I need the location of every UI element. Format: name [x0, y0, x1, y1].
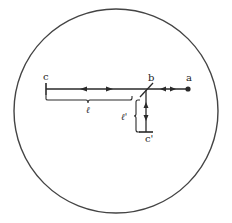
interferometer-diagram: c b a c' ℓ ℓ': [0, 0, 232, 223]
label-l-prime: ℓ': [121, 112, 127, 122]
arrow-up-icon: [144, 102, 149, 108]
brace-l: [46, 95, 132, 103]
field-of-view-circle: [14, 9, 218, 213]
arrow-left-icon: [80, 87, 87, 92]
label-a: a: [186, 72, 192, 83]
source-a: [185, 86, 190, 91]
arrow-down-icon: [144, 115, 149, 121]
label-c: c: [43, 71, 49, 82]
arrow-right-icon: [170, 87, 176, 92]
label-l: ℓ: [86, 105, 90, 115]
label-c-prime: c': [145, 133, 153, 144]
arrow-right-icon: [106, 87, 113, 92]
brace-l-prime: [134, 100, 140, 132]
label-b: b: [148, 72, 154, 83]
arrow-left-icon: [160, 87, 166, 92]
